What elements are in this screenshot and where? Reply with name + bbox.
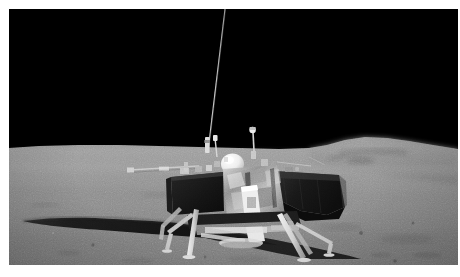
screenshot-root: Lunar lander on the Moon's surface A fou… bbox=[0, 0, 460, 277]
leg-front-left bbox=[162, 209, 199, 259]
dark-instrument-box bbox=[166, 165, 224, 215]
lunar-lander bbox=[9, 9, 458, 265]
secondary-mast bbox=[213, 135, 218, 157]
footpad bbox=[219, 238, 263, 248]
lunar-lander-photograph bbox=[9, 9, 458, 265]
upper-mast-sensor bbox=[249, 127, 256, 159]
right-boom bbox=[277, 157, 325, 166]
antenna-mast bbox=[204, 9, 225, 153]
left-boom bbox=[127, 159, 201, 173]
